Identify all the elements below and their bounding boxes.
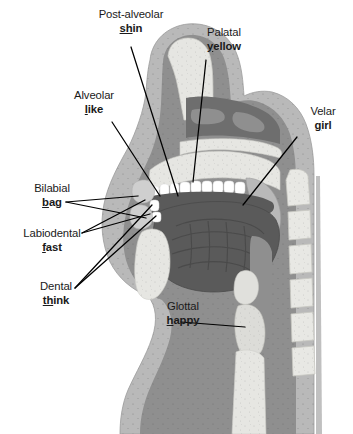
label-post-alveolar: Post-alveolar shin (72, 8, 190, 36)
label-glottal-word: happy (142, 314, 224, 328)
label-post-alveolar-term: Post-alveolar (72, 8, 190, 22)
label-bilabial-word: bag (14, 196, 90, 210)
label-dental-word: think (18, 294, 94, 308)
label-labiodental: Labiodental fast (6, 227, 98, 255)
label-velar-word: girl (296, 119, 350, 133)
label-alveolar-word: like (52, 103, 136, 117)
label-alveolar-term: Alveolar (52, 89, 136, 103)
label-post-alveolar-word: shin (72, 22, 190, 36)
label-velar: Velar girl (296, 105, 350, 133)
label-palatal-word: yellow (176, 40, 272, 54)
label-palatal-term: Palatal (176, 26, 272, 40)
label-velar-term: Velar (296, 105, 350, 119)
label-alveolar: Alveolar like (52, 89, 136, 117)
trachea (232, 350, 266, 434)
vocal-tract-illustration (0, 0, 353, 434)
label-palatal: Palatal yellow (176, 26, 272, 54)
label-glottal: Glottal happy (142, 300, 224, 328)
articulation-diagram: Post-alveolar shin Palatal yellow Alveol… (0, 0, 353, 434)
label-bilabial-term: Bilabial (14, 182, 90, 196)
label-labiodental-term: Labiodental (6, 227, 98, 241)
label-glottal-term: Glottal (142, 300, 224, 314)
epiglottis (234, 270, 259, 304)
label-bilabial: Bilabial bag (14, 182, 90, 210)
larynx-glottis (235, 304, 265, 357)
label-dental: Dental think (18, 280, 94, 308)
label-labiodental-word: fast (6, 241, 98, 255)
label-dental-term: Dental (18, 280, 94, 294)
